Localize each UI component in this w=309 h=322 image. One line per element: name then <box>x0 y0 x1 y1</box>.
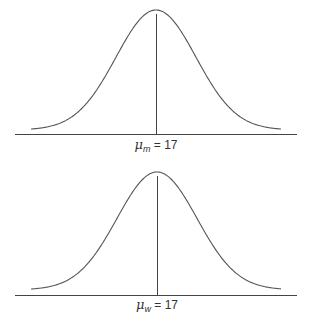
chart-men <box>15 10 297 135</box>
chart-women <box>15 172 297 296</box>
cropped-caption-text <box>10 316 300 322</box>
mean-value: = 17 <box>154 138 178 152</box>
mean-label-women: μw = 17 <box>136 297 178 314</box>
mean-subscript: m <box>143 144 151 154</box>
mean-label-men: μm = 17 <box>135 137 178 154</box>
normal-curves-figure <box>0 0 309 322</box>
mean-value: = 17 <box>154 298 178 312</box>
mean-subscript: w <box>144 304 151 314</box>
normal-curve-women <box>31 172 281 289</box>
